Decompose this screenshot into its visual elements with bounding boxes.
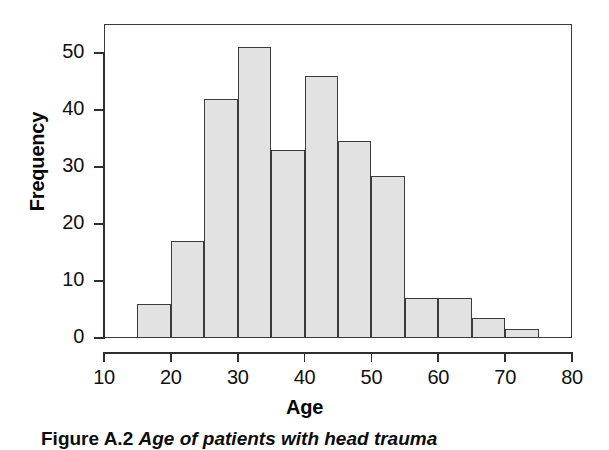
x-axis-tick-label: 30 <box>213 366 263 389</box>
figure-caption-label: Figure A.2 <box>41 428 133 449</box>
histogram-bar <box>371 176 404 338</box>
x-axis-tick <box>304 352 306 362</box>
histogram-bar <box>472 318 505 338</box>
x-axis-tick-label: 20 <box>146 366 196 389</box>
figure-caption-text: Age of patients with head trauma <box>138 428 437 449</box>
histogram-bar <box>204 99 237 338</box>
y-axis-tick <box>94 223 103 225</box>
x-axis-tick-label: 50 <box>346 366 396 389</box>
x-axis-tick <box>504 352 506 362</box>
y-axis-line <box>103 52 105 339</box>
histogram-bar <box>405 298 438 338</box>
x-axis-tick-label: 40 <box>280 366 330 389</box>
histogram-bar <box>438 298 471 338</box>
histogram-bar <box>305 76 338 338</box>
histogram-bar <box>338 141 371 338</box>
y-axis-tick <box>94 166 103 168</box>
y-axis-tick <box>94 337 103 339</box>
y-axis-tick-label: 0 <box>0 325 84 348</box>
histogram-bar <box>271 150 304 338</box>
x-axis-tick-label: 60 <box>413 366 463 389</box>
histogram-bar <box>238 47 271 338</box>
histogram-bar <box>171 241 204 338</box>
x-axis-tick-label: 10 <box>79 366 129 389</box>
x-axis-tick <box>571 352 573 362</box>
x-axis-tick <box>237 352 239 362</box>
y-axis-tick <box>94 280 103 282</box>
histogram-bars <box>104 24 572 338</box>
y-axis-tick <box>94 52 103 54</box>
x-axis-line <box>104 352 572 354</box>
histogram-bar <box>505 329 538 338</box>
x-axis-tick <box>371 352 373 362</box>
x-axis-title: Age <box>0 396 609 419</box>
x-axis-tick-label: 80 <box>547 366 597 389</box>
x-axis-tick <box>103 352 105 362</box>
y-axis-tick-label: 50 <box>0 40 84 63</box>
x-axis-tick <box>437 352 439 362</box>
y-axis-title: Frequency <box>26 82 49 242</box>
y-axis-tick-label: 10 <box>0 268 84 291</box>
y-axis-tick <box>94 109 103 111</box>
figure-caption: Figure A.2 Age of patients with head tra… <box>41 428 581 450</box>
x-axis-tick <box>170 352 172 362</box>
x-axis-tick-label: 70 <box>480 366 530 389</box>
histogram-bar <box>137 304 170 338</box>
